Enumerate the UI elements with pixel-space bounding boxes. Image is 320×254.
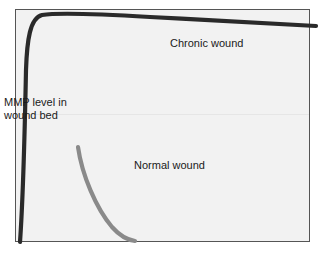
- normal-wound-label: Normal wound: [134, 159, 205, 172]
- y-axis-label: MMP level in wound bed: [4, 96, 67, 122]
- chronic-wound-curve: [20, 14, 316, 242]
- y-axis-label-line1: MMP level in: [4, 96, 67, 108]
- chronic-wound-label: Chronic wound: [170, 37, 243, 50]
- curve-layer: [0, 0, 320, 254]
- normal-wound-curve: [78, 147, 135, 241]
- y-axis-label-line2: wound bed: [4, 109, 58, 121]
- figure: MMP level in wound bed Chronic wound Nor…: [0, 0, 320, 254]
